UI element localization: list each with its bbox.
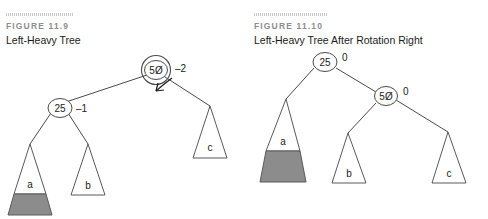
edge-child-to-subtree-c <box>396 100 448 132</box>
tree-node-25-key: 25 <box>54 103 66 114</box>
subtree-triangle-c: c <box>193 106 227 158</box>
subtree-triangle-a: a <box>8 144 52 215</box>
figure-panel-left-heavy-tree: FIGURE 11.9 Left-Heavy Tree a b <box>0 0 246 219</box>
edge-root-to-subtree-a <box>286 68 314 99</box>
subtree-label-c: c <box>208 142 213 153</box>
subtree-label-b: b <box>346 168 352 179</box>
figure-title: Left-Heavy Tree <box>6 33 81 47</box>
balance-factor-node-25: –1 <box>76 103 88 114</box>
figure-number-label: FIGURE 11.9 <box>6 21 81 32</box>
caption-rule <box>6 13 74 16</box>
subtree-label-a: a <box>27 179 33 190</box>
tree-diagram-left-heavy: a b c 25 –1 5Ø – <box>0 48 246 219</box>
edge-child-to-subtree-b <box>348 103 376 133</box>
subtree-label-c: c <box>447 168 452 179</box>
edge-child-to-subtree-b <box>68 113 88 144</box>
figure-number-label: FIGURE 11.10 <box>254 21 423 32</box>
figure-caption-block: FIGURE 11.9 Left-Heavy Tree <box>6 13 81 47</box>
subtree-triangle-b: b <box>332 133 366 183</box>
tree-node-25-key: 25 <box>319 57 331 68</box>
tree-node-25[interactable]: 25 <box>48 99 72 118</box>
edge-root-to-right-child <box>336 68 376 92</box>
edge-child-to-subtree-a <box>30 113 51 144</box>
tree-node-50-key: 5Ø <box>149 65 163 76</box>
subtree-triangle-a: a <box>260 99 306 182</box>
figure-panel-after-rotation: FIGURE 11.10 Left-Heavy Tree After Rotat… <box>248 0 488 219</box>
tree-diagram-after-rotation: a b c 25 0 5Ø 0 <box>248 48 488 219</box>
subtree-triangle-b: b <box>71 144 105 195</box>
tree-node-25[interactable]: 25 <box>313 53 337 72</box>
edge-root-to-left-child <box>60 74 150 104</box>
caption-rule <box>254 13 328 16</box>
figure-caption-block: FIGURE 11.10 Left-Heavy Tree After Rotat… <box>254 13 423 47</box>
balance-factor-node-50: –2 <box>175 63 187 74</box>
subtree-label-a: a <box>280 136 286 147</box>
tree-node-50[interactable]: 5Ø <box>375 87 398 106</box>
subtree-triangle-c: c <box>432 132 466 183</box>
balance-factor-node-25: 0 <box>342 52 348 63</box>
balance-factor-node-50: 0 <box>403 86 409 97</box>
subtree-label-b: b <box>85 180 91 191</box>
figure-title: Left-Heavy Tree After Rotation Right <box>254 33 423 47</box>
tree-node-50[interactable]: 5Ø <box>142 56 171 85</box>
tree-node-50-key: 5Ø <box>379 91 393 102</box>
